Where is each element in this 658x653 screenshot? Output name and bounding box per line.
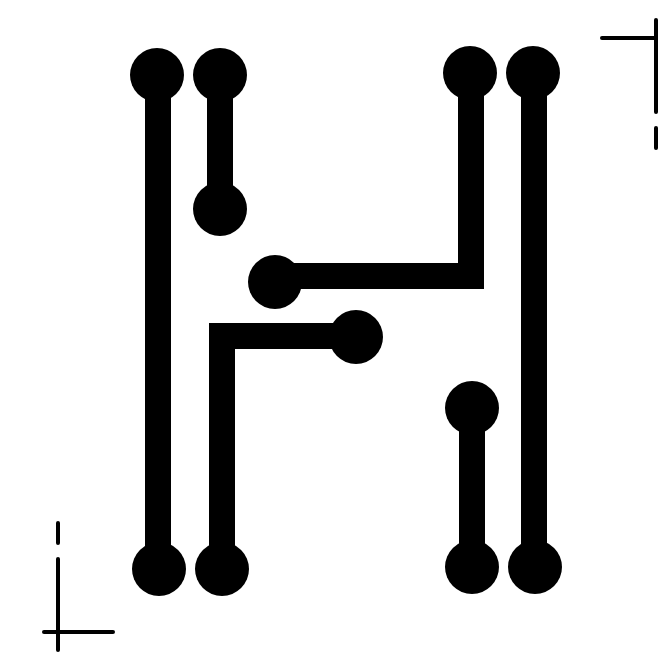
- solder-pad-icon: [193, 182, 247, 236]
- solder-pad-icon: [130, 48, 184, 102]
- solder-pad-icon: [506, 46, 560, 100]
- solder-pad-icon: [195, 542, 249, 596]
- solder-pad-icon: [193, 48, 247, 102]
- solder-pad-icon: [248, 255, 302, 309]
- solder-pad-icon: [508, 540, 562, 594]
- solder-pad-icon: [445, 381, 499, 435]
- solder-pad-icon: [329, 310, 383, 364]
- solder-pad-icon: [445, 540, 499, 594]
- solder-pad-icon: [443, 46, 497, 100]
- circuit-h-logo: [0, 0, 658, 653]
- solder-pad-icon: [132, 542, 186, 596]
